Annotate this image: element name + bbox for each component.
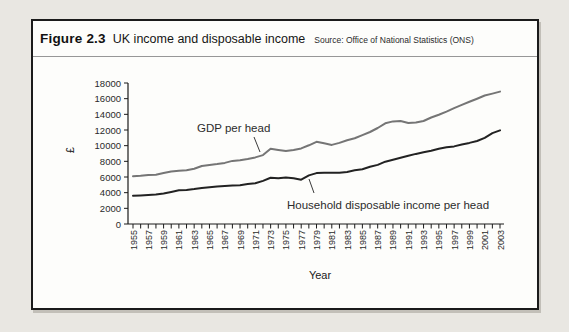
x-tick-label: 1969: [236, 230, 246, 250]
x-tick-label: 1961: [174, 230, 184, 250]
x-tick-label: 1957: [144, 230, 154, 250]
figure-header: Figure 2.3 UK income and disposable inco…: [33, 21, 537, 57]
figure-source: Source: Office of National Statistics (O…: [314, 35, 474, 45]
x-tick-label: 1991: [404, 230, 414, 250]
y-tick-label: 8000: [100, 156, 121, 167]
x-tick-label: 1983: [343, 230, 353, 250]
y-tick-label: 6000: [100, 172, 121, 183]
y-tick-label: 14000: [95, 109, 121, 120]
series-annotation-label: GDP per head: [197, 122, 270, 134]
x-tick-label: 1999: [465, 230, 475, 250]
x-tick-label: 1981: [327, 230, 337, 250]
x-tick-label: 1965: [205, 230, 215, 250]
x-axis-title: Year: [309, 269, 332, 281]
x-tick-label: 1995: [434, 230, 444, 250]
household-disposable-income-per-head-line: [133, 130, 500, 195]
y-tick-label: 4000: [100, 187, 121, 198]
y-tick-label: 18000: [95, 78, 121, 89]
x-tick-label: 2001: [480, 230, 490, 250]
y-tick-label: 10000: [95, 140, 121, 151]
chart-area: 0200040006000800010000120001400016000180…: [33, 58, 537, 308]
figure-title: UK income and disposable income: [113, 32, 305, 46]
series-annotation-label: Household disposable income per head: [287, 199, 489, 211]
x-tick-label: 1977: [297, 230, 307, 250]
x-tick-label: 1971: [251, 230, 261, 250]
x-tick-label: 1979: [312, 230, 322, 250]
x-tick-label: 1989: [388, 230, 398, 250]
x-tick-label: 1975: [281, 230, 291, 250]
x-tick-label: 1955: [129, 230, 139, 250]
x-tick-label: 1993: [419, 230, 429, 250]
x-tick-label: 1987: [373, 230, 383, 250]
x-tick-label: 1963: [190, 230, 200, 250]
gdp-per-head-line: [133, 92, 500, 177]
y-tick-label: 12000: [95, 125, 121, 136]
annotation-leader-line: [254, 137, 260, 152]
income-line-chart: 0200040006000800010000120001400016000180…: [33, 58, 537, 308]
x-tick-label: 1997: [450, 230, 460, 250]
figure-box: Figure 2.3 UK income and disposable inco…: [31, 19, 539, 310]
x-tick-label: 2003: [496, 230, 506, 250]
x-tick-label: 1985: [358, 230, 368, 250]
x-tick-label: 1973: [266, 230, 276, 250]
figure-label: Figure 2.3: [40, 31, 106, 46]
x-tick-label: 1959: [159, 230, 169, 250]
y-tick-label: 16000: [95, 93, 121, 104]
x-tick-label: 1967: [220, 230, 230, 250]
y-axis-title: £: [64, 147, 76, 153]
y-tick-label: 0: [116, 219, 121, 230]
annotation-leader-line: [309, 179, 314, 193]
y-tick-label: 2000: [100, 203, 121, 214]
